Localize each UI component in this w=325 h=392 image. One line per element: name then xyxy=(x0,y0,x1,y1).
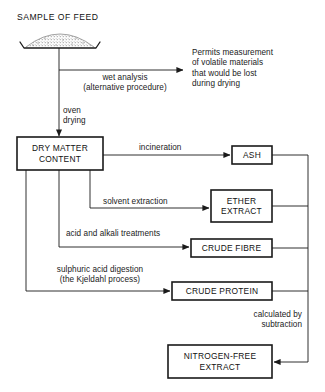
box-crude-fibre xyxy=(191,239,272,257)
diagram-title: SAMPLE OF FEED xyxy=(17,12,99,22)
box-ash xyxy=(232,146,272,164)
process-label-calculated-by-subtraction: calculated by subtraction xyxy=(202,310,302,331)
edge-collector-bus-to-nitrogen-free-extract xyxy=(272,155,308,362)
process-label-wet-analysis: wet analysis (alternative procedure) xyxy=(66,73,184,94)
process-label-incineration: incineration xyxy=(139,143,199,153)
process-label-acid-and-alkali-treatments: acid and alkali treatments xyxy=(66,229,190,239)
process-label-sulphuric-acid-digestion: sulphuric acid digestion (the Kjeldahl p… xyxy=(30,265,170,286)
process-label-oven-drying: oven drying xyxy=(63,106,123,127)
box-crude-protein xyxy=(172,282,272,300)
feed-sample-icon xyxy=(20,30,100,49)
box-nitrogen-free-extract xyxy=(168,345,272,378)
box-ether-extract xyxy=(211,190,272,222)
note-permits-measurement: Permits measurement of volatile material… xyxy=(192,48,322,90)
process-label-solvent-extraction: solvent extraction xyxy=(103,197,193,207)
box-dry-matter-content xyxy=(17,137,103,170)
